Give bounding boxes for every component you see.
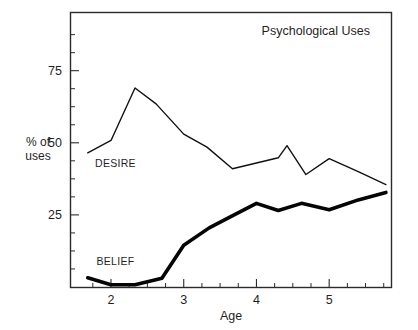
chart-background [0,0,418,330]
x-tick-label: 5 [326,293,333,307]
x-tick-label: 2 [108,293,115,307]
x-tick-label: 3 [180,293,187,307]
psychological-uses-figure: 255075 2345 DESIRE BELIEF Psychological … [0,0,418,330]
x-axis-title: Age [220,309,242,323]
x-tick-label: 4 [253,293,260,307]
y-axis-title-line2: uses [25,149,50,163]
y-tick-label: 75 [48,64,62,78]
y-tick-label: 25 [48,208,62,222]
y-axis-title-line1: % of [26,135,51,149]
series-label-belief: BELIEF [96,255,134,267]
series-label-desire: DESIRE [95,157,136,169]
chart-canvas: 255075 2345 DESIRE BELIEF Psychological … [0,0,418,330]
chart-title: Psychological Uses [262,24,370,38]
